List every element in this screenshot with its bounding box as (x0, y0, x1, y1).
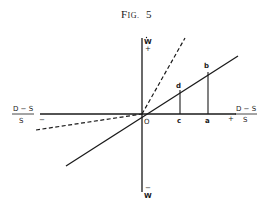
horizontal-left-sign: − (39, 116, 45, 124)
point-label-d: d (176, 82, 181, 90)
horizontal-right-denominator: S (243, 116, 248, 124)
vertical-top-sign: + (145, 45, 151, 53)
w-dot-top (146, 37, 147, 38)
diagram-canvas: d b c a O W + − W + D − S S D − S S − (0, 0, 273, 206)
solid-line (66, 56, 238, 166)
vertical-bottom-label: W (144, 192, 152, 200)
point-label-c: c (177, 117, 181, 125)
horizontal-left-numerator: D − S (13, 105, 34, 113)
horizontal-right-numerator: D − S (236, 105, 257, 113)
horizontal-left-denominator: S (19, 117, 24, 125)
origin-label: O (144, 118, 150, 126)
point-label-a: a (205, 117, 210, 125)
point-label-b: b (204, 62, 209, 70)
vertical-bottom-sign: − (145, 184, 151, 192)
horizontal-right-sign: + (228, 115, 234, 123)
